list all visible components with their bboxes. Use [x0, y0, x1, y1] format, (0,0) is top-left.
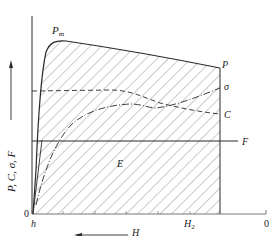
- curve-P-label: P: [221, 59, 228, 70]
- y-arrow-head-icon: [9, 60, 13, 68]
- line-F-label: F: [241, 136, 249, 147]
- curve-sigma-label: σ: [224, 81, 230, 92]
- y-axis-label: P, C, σ, F: [5, 150, 17, 193]
- peak-label: Pm: [51, 24, 65, 38]
- x-axis-label: H: [131, 227, 140, 236]
- hatched-area: [30, 30, 225, 220]
- x-start-label: h: [31, 218, 36, 229]
- curve-C-label: C: [224, 109, 231, 120]
- diagram-canvas: P, C, σ, F 0 h H2 0 H Pm P σ C F E: [0, 0, 272, 236]
- x-end-label: 0: [264, 218, 269, 229]
- x-mark-label: H2: [183, 218, 195, 231]
- area-E-label: E: [116, 158, 123, 169]
- origin-label: 0: [24, 208, 29, 219]
- x-arrow-head-icon: [74, 233, 82, 236]
